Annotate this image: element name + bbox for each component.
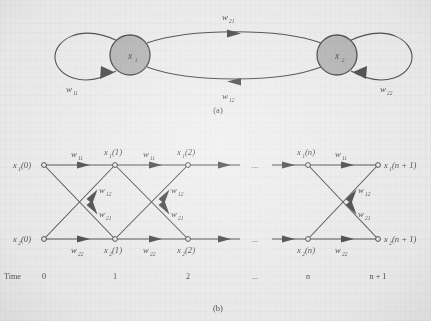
x2-t1-base: x bbox=[103, 245, 108, 255]
weight-label-w21-n: w 21 bbox=[358, 209, 371, 221]
state-label-x1-tn: x 1 (n) bbox=[296, 147, 315, 159]
panel-b: x 1 (0) x 1 (1) x 1 (2) x 1 (n) x 1 bbox=[4, 147, 417, 313]
time-tick-2: 2 bbox=[186, 272, 190, 281]
weight-label-w11-panel-a: w 11 bbox=[66, 84, 78, 96]
node-x2-t0[interactable] bbox=[42, 237, 47, 242]
x1-t0-base: x bbox=[12, 160, 17, 170]
x2-t2-base: x bbox=[176, 245, 181, 255]
x1-t2-arg: (2) bbox=[185, 147, 195, 157]
w21-0-base: w bbox=[99, 209, 105, 219]
x1-t2-base: x bbox=[176, 147, 181, 157]
state-label-x1-t0: x 1 (0) bbox=[12, 160, 31, 172]
node-x2-t2[interactable] bbox=[186, 237, 191, 242]
x2-tn-arg: (n) bbox=[305, 245, 315, 255]
bottom-row-edges bbox=[44, 235, 378, 242]
weight-label-w12-n: w 12 bbox=[358, 185, 371, 197]
weight-label-w22-0: w 22 bbox=[71, 245, 84, 257]
w11-n-base: w bbox=[335, 149, 341, 159]
weight-label-w11-n: w 11 bbox=[335, 149, 347, 161]
node-x2-t1[interactable] bbox=[113, 237, 118, 242]
state-label-x2-t2: x 2 (2) bbox=[176, 245, 195, 257]
x1-tn-base: x bbox=[296, 147, 301, 157]
w21-a-base: w bbox=[222, 12, 228, 22]
node-x2-tn1[interactable] bbox=[376, 237, 381, 242]
node-x1-tn1[interactable] bbox=[376, 163, 381, 168]
time-tick-1: 1 bbox=[113, 272, 117, 281]
figure-root: x 1 x 2 w 11 w 21 w 12 w bbox=[0, 0, 431, 321]
node-x2[interactable]: x 2 bbox=[317, 35, 357, 75]
node-x1[interactable]: x 1 bbox=[110, 35, 150, 75]
x2-tn1-base: x bbox=[383, 234, 388, 244]
x1-tn1-arg: (n + 1) bbox=[392, 160, 417, 170]
node-x1-t0[interactable] bbox=[42, 163, 47, 168]
weight-label-w11-1: w 11 bbox=[143, 149, 155, 161]
node-x1-tn[interactable] bbox=[306, 163, 311, 168]
w22-0-base: w bbox=[71, 245, 77, 255]
diagonal-edges-block-1 bbox=[115, 165, 188, 239]
x1-t1-arg: (1) bbox=[112, 147, 122, 157]
time-axis-label: Time bbox=[4, 272, 21, 281]
time-tick-n: n bbox=[306, 272, 310, 281]
diagonal-edges-block-0 bbox=[44, 165, 115, 239]
weight-label-w21-0: w 21 bbox=[99, 209, 112, 221]
state-label-x2-tn1: x 2 (n + 1) bbox=[383, 234, 417, 246]
top-row-edges bbox=[44, 161, 378, 168]
ellipsis-top-row: ... bbox=[252, 160, 258, 170]
x2-tn1-arg: (n + 1) bbox=[392, 234, 417, 244]
w21-n-sub: 21 bbox=[365, 215, 371, 221]
node-x2-label: x bbox=[334, 51, 340, 61]
w12-0-base: w bbox=[99, 185, 105, 195]
weight-label-w12-panel-a: w 12 bbox=[222, 91, 235, 103]
edge-x2-to-x1 bbox=[147, 67, 321, 86]
node-x1-label: x bbox=[127, 51, 133, 61]
state-label-x2-tn: x 2 (n) bbox=[296, 245, 315, 257]
x1-t1-base: x bbox=[103, 147, 108, 157]
node-x2-subscript: 2 bbox=[342, 57, 345, 63]
time-tick-ellipsis: ... bbox=[252, 272, 258, 281]
weight-label-w22-n: w 22 bbox=[335, 245, 348, 257]
edge-x1-to-x2 bbox=[147, 30, 321, 43]
x2-t0-base: x bbox=[12, 234, 17, 244]
w21-1-base: w bbox=[171, 209, 177, 219]
edge-self-loop-x1 bbox=[55, 33, 118, 80]
time-tick-n-plus-1: n + 1 bbox=[370, 272, 387, 281]
time-tick-0: 0 bbox=[42, 272, 46, 281]
weight-label-w21-panel-a: w 21 bbox=[222, 12, 235, 24]
w21-n-base: w bbox=[358, 209, 364, 219]
node-x1-t2[interactable] bbox=[186, 163, 191, 168]
state-label-x1-tn1: x 1 (n + 1) bbox=[383, 160, 417, 172]
state-label-x1-t2: x 1 (2) bbox=[176, 147, 195, 159]
w12-1-sub: 12 bbox=[178, 191, 184, 197]
state-label-x2-t0: x 2 (0) bbox=[12, 234, 31, 246]
time-axis: Time 0 1 2 ... n n + 1 bbox=[4, 272, 386, 281]
signal-flow-graph-figure: x 1 x 2 w 11 w 21 w 12 w bbox=[0, 0, 431, 321]
w11-a-base: w bbox=[66, 84, 72, 94]
weight-label-w22-1: w 22 bbox=[143, 245, 156, 257]
w22-a-base: w bbox=[380, 84, 386, 94]
w12-a-base: w bbox=[222, 91, 228, 101]
w22-n-base: w bbox=[335, 245, 341, 255]
diagonal-edges-block-n bbox=[308, 165, 378, 239]
edge-self-loop-x2 bbox=[349, 33, 412, 80]
w21-a-sub: 21 bbox=[229, 18, 235, 24]
x1-tn1-base: x bbox=[383, 160, 388, 170]
weight-label-w22-panel-a: w 22 bbox=[380, 84, 393, 96]
w12-n-sub: 12 bbox=[365, 191, 371, 197]
ellipsis-bottom-row: ... bbox=[252, 234, 258, 244]
w22-a-sub: 22 bbox=[387, 90, 393, 96]
w11-1-base: w bbox=[143, 149, 149, 159]
w12-0-sub: 12 bbox=[106, 191, 112, 197]
x2-t1-arg: (1) bbox=[112, 245, 122, 255]
w21-1-sub: 21 bbox=[178, 215, 184, 221]
w22-1-sub: 22 bbox=[150, 251, 156, 257]
w11-1-sub: 11 bbox=[150, 155, 155, 161]
x2-t2-arg: (2) bbox=[185, 245, 195, 255]
panel-a: x 1 x 2 w 11 w 21 w 12 w bbox=[55, 12, 412, 115]
weight-label-w21-1: w 21 bbox=[171, 209, 184, 221]
node-x2-tn[interactable] bbox=[306, 237, 311, 242]
x1-t0-arg: (0) bbox=[21, 160, 31, 170]
panel-b-caption: (b) bbox=[213, 303, 223, 313]
panel-a-caption: (a) bbox=[213, 105, 223, 115]
node-x1-t1[interactable] bbox=[113, 163, 118, 168]
weight-label-w12-0: w 12 bbox=[99, 185, 112, 197]
